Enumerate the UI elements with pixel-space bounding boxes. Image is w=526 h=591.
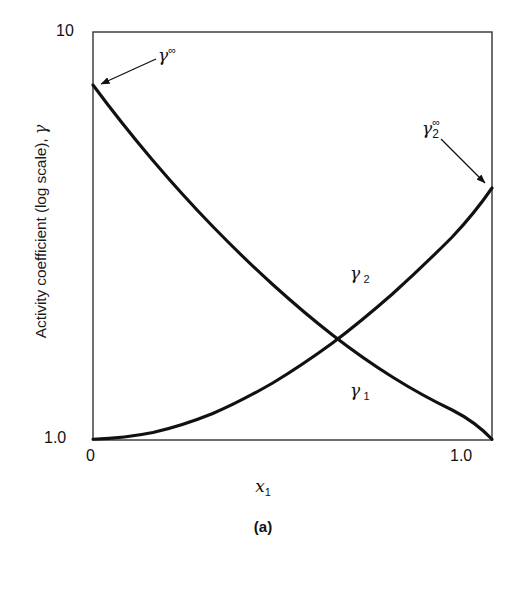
annotation-label-gamma2-infinity: γ∞2 xyxy=(422,118,442,140)
y-axis-gamma-symbol: γ xyxy=(31,125,50,134)
curve-label-gamma1-symbol: γ xyxy=(350,380,360,400)
annotation-gamma2-subscript: 2 xyxy=(432,127,439,141)
y-axis-title-text: Activity coefficient (log scale), xyxy=(32,134,49,338)
plot-canvas xyxy=(0,0,526,591)
curve-label-gamma1-subscript: 1 xyxy=(364,390,370,402)
x-axis-title: x1 xyxy=(0,476,526,498)
annotation-arrow-gamma1-infinity xyxy=(101,59,156,84)
x-tick-label-left: 0 xyxy=(86,447,95,465)
x-axis-symbol: x xyxy=(255,476,265,496)
annotation-arrow-gamma2-infinity xyxy=(441,139,485,183)
curve-label-gamma1: γ 1 xyxy=(350,380,370,402)
y-tick-label-bottom: 1.0 xyxy=(44,429,66,447)
x-tick-label-right: 1.0 xyxy=(450,447,472,465)
annotation-gamma2-script-stack: ∞2 xyxy=(432,120,442,140)
curve-label-gamma2-subscript: 2 xyxy=(364,273,370,285)
figure-caption: (a) xyxy=(0,518,526,535)
y-axis-title: Activity coefficient (log scale), γ xyxy=(31,32,50,432)
annotation-gamma1-symbol: γ xyxy=(158,45,168,65)
annotation-gamma1-superscript: ∞ xyxy=(168,44,176,56)
y-tick-label-top: 10 xyxy=(56,22,74,40)
axis-frame xyxy=(93,32,492,440)
annotation-gamma2-symbol: γ xyxy=(422,118,432,138)
x-axis-subscript: 1 xyxy=(265,486,271,498)
annotation-label-gamma1-infinity: γ∞ xyxy=(158,44,176,65)
curve-label-gamma2: γ 2 xyxy=(350,263,370,285)
curve-label-gamma2-symbol: γ xyxy=(350,263,360,283)
figure-root: Activity coefficient (log scale), γ 10 1… xyxy=(0,0,526,591)
